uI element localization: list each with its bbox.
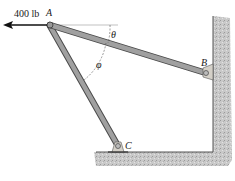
pin-a — [47, 22, 53, 28]
point-c-label: C — [125, 140, 132, 151]
truss-diagram: 400 lb A B C θ φ — [0, 0, 235, 181]
point-a-label: A — [45, 7, 53, 18]
point-b-label: B — [201, 57, 207, 68]
theta-label: θ — [111, 29, 116, 40]
force-arrow — [3, 21, 47, 29]
phi-arc — [84, 43, 106, 80]
force-label: 400 lb — [14, 8, 39, 19]
phi-label: φ — [96, 59, 102, 70]
